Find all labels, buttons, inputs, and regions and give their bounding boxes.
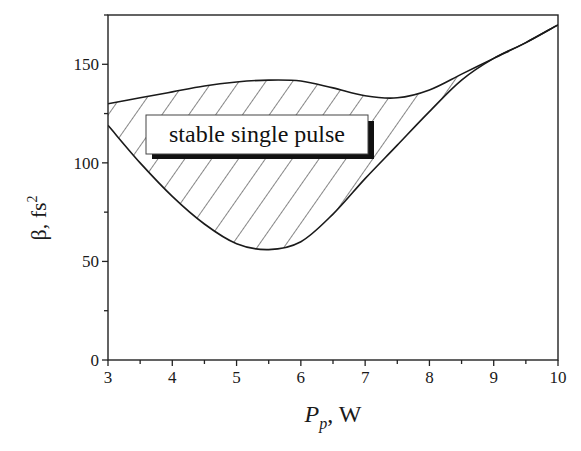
svg-text:β, fs2: β, fs2 — [25, 195, 51, 240]
y-axis-label-main: β, fs — [26, 202, 51, 240]
x-tick-label: 3 — [104, 368, 113, 387]
annotation-text: stable single pulse — [169, 121, 345, 147]
y-tick-label: 50 — [82, 252, 99, 271]
chart: 345678910 050100150 stable single pulse … — [0, 0, 581, 451]
x-tick-label: 10 — [550, 368, 567, 387]
y-tick-label: 0 — [91, 351, 100, 370]
y-axis-label: β, fs2 — [25, 195, 51, 240]
x-axis-ticks: 345678910 — [104, 360, 567, 387]
y-axis-ticks: 050100150 — [74, 15, 109, 370]
x-axis-label-main: P — [304, 401, 320, 427]
x-tick-label: 9 — [489, 368, 498, 387]
annotation-stable-single-pulse: stable single pulse — [146, 115, 374, 159]
x-tick-label: 8 — [425, 368, 434, 387]
x-tick-label: 6 — [297, 368, 306, 387]
x-axis-label: Pp, W — [304, 401, 362, 433]
x-tick-label: 4 — [168, 368, 177, 387]
y-axis-label-sup: 2 — [25, 195, 40, 202]
x-axis-label-sub: p — [318, 415, 327, 433]
x-tick-label: 5 — [232, 368, 241, 387]
x-axis-label-unit: , W — [327, 401, 362, 427]
y-tick-label: 150 — [74, 55, 100, 74]
x-tick-label: 7 — [361, 368, 370, 387]
y-tick-label: 100 — [74, 154, 100, 173]
